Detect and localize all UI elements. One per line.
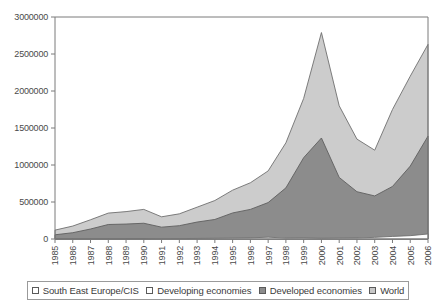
x-axis-tick-label: 1991 (157, 246, 167, 265)
y-axis-tick-label: 2500000 (14, 49, 48, 59)
x-axis-tick-label: 1996 (246, 246, 256, 265)
x-axis-tick-label: 2001 (335, 246, 345, 265)
x-axis-tick-label: 1990 (139, 246, 149, 265)
legend-item-label: South East Europe/CIS (43, 285, 139, 296)
legend-item[interactable]: Developed economies (256, 285, 365, 296)
legend-swatch-developing (146, 287, 153, 294)
chart-legend: South East Europe/CISDeveloping economie… (27, 281, 409, 300)
x-axis-tick-label: 1998 (281, 246, 291, 265)
x-axis-tick-label: 1999 (299, 246, 309, 265)
y-axis-tick-label: 0 (43, 234, 48, 244)
legend-item-label: Developed economies (270, 285, 362, 296)
stacked-area-chart: 0500000100000015000002000000250000030000… (0, 0, 436, 308)
legend-swatch-cis (32, 287, 39, 294)
x-axis-tick-label: 2000 (317, 246, 327, 265)
x-axis-tick-label: 2003 (370, 246, 380, 265)
x-axis-tick-label: 2004 (388, 246, 398, 265)
y-axis-tick-label: 2000000 (14, 86, 48, 96)
legend-swatch-world (369, 287, 376, 294)
legend-item-label: Developing economies (157, 285, 251, 296)
x-axis-tick-label: 1997 (264, 246, 274, 265)
x-axis-tick-label: 1985 (50, 246, 60, 265)
x-axis-tick-label: 1989 (121, 246, 131, 265)
y-axis-tick-label: 1000000 (14, 160, 48, 170)
x-axis-tick-label: 1987 (86, 246, 96, 265)
x-axis-tick-label: 1994 (210, 246, 220, 265)
x-axis-tick-label: 2002 (352, 246, 362, 265)
x-axis-tick-label: 1988 (104, 246, 114, 265)
x-axis-tick-label: 2006 (423, 246, 433, 265)
legend-item[interactable]: Developing economies (143, 285, 254, 296)
y-axis-tick-label: 1500000 (14, 123, 48, 133)
y-axis-tick-label: 500000 (19, 197, 48, 207)
chart-canvas: 0500000100000015000002000000250000030000… (0, 0, 436, 308)
legend-swatch-developed (259, 287, 266, 294)
x-axis-tick-label: 1993 (192, 246, 202, 265)
legend-item[interactable]: World (366, 285, 407, 296)
x-axis-tick-label: 1995 (228, 246, 238, 265)
legend-item-label: World (380, 285, 404, 296)
y-axis-tick-label: 3000000 (14, 12, 48, 22)
legend-item[interactable]: South East Europe/CIS (29, 285, 142, 296)
x-axis-tick-label: 1992 (175, 246, 185, 265)
x-axis-tick-label: 1986 (68, 246, 78, 265)
x-axis-tick-label: 2005 (406, 246, 416, 265)
